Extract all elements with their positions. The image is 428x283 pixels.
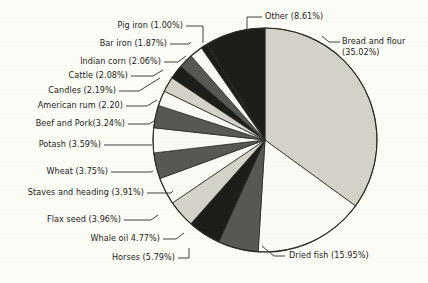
leader-line-beef-and-pork (128, 121, 154, 124)
pie-slices-group (153, 28, 377, 252)
label-flax-seed: Flax seed (3.96%) (20, 214, 121, 225)
pie-chart-figure: Bread and flour (35.02%) Other (8.61%) D… (0, 0, 428, 283)
label-other: Other (8.61%) (265, 11, 323, 22)
label-whale-oil: Whale oil 4.77%) (50, 233, 160, 244)
leader-line-bread-and-flour (322, 36, 340, 42)
leader-line-wheat (111, 171, 153, 172)
label-dried-fish: Dried fish (15.95%) (289, 250, 369, 261)
label-bread-and-flour-line2: (35.02%) (342, 47, 380, 57)
leader-line-cattle (131, 70, 163, 76)
label-potash: Potash (3.59%) (10, 139, 101, 150)
leader-line-pig-iron (186, 26, 203, 43)
leader-line-horses (178, 248, 189, 258)
leader-line-bar-iron (170, 42, 191, 44)
label-candles: Candles (2.19%) (20, 85, 116, 96)
label-bar-iron: Bar iron (1.87%) (60, 38, 167, 49)
label-pig-iron: Pig iron (1.00%) (80, 20, 183, 31)
leader-line-american-rum (126, 100, 157, 106)
leader-line-whale-oil (163, 233, 184, 239)
leader-line-flax-seed (124, 215, 158, 220)
label-american-rum: American rum (2.20) (10, 100, 123, 111)
leader-line-indian-corn (164, 56, 186, 62)
label-bread-and-flour: Bread and flour (35.02%) (342, 36, 420, 57)
label-cattle: Cattle (2.08%) (40, 70, 128, 81)
label-bread-and-flour-line1: Bread and flour (342, 36, 405, 46)
label-staves-and-heading: Staves and heading (3.91%) (5, 187, 144, 198)
label-beef-and-pork: Beef and Pork(3.24%) (10, 118, 125, 129)
label-indian-corn: Indian corn (2.06%) (43, 56, 161, 67)
label-horses: Horses (5.79%) (62, 252, 175, 263)
label-wheat: Wheat (3.75%) (20, 166, 108, 177)
